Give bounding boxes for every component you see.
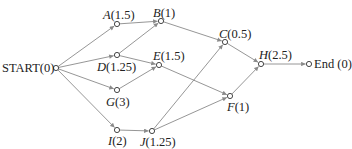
node-duration: (1)	[161, 6, 176, 20]
node-label-end: End (0)	[314, 58, 352, 71]
node-name: A	[103, 8, 111, 22]
node-label-start: START(0)	[2, 62, 54, 75]
node-duration: (2)	[112, 134, 127, 148]
node-label-d: D(1.25)	[97, 61, 136, 74]
node-label-g: G(3)	[106, 96, 130, 109]
node-end-icon	[306, 61, 311, 66]
node-duration: (2.5)	[268, 48, 292, 62]
node-label-b: B(1)	[153, 7, 175, 20]
node-a-icon	[114, 21, 119, 26]
node-d-icon	[114, 52, 119, 57]
node-label-f: F(1)	[227, 101, 249, 114]
edge-j-to-f	[154, 97, 227, 130]
node-i-icon	[114, 127, 119, 132]
node-name: B	[153, 6, 161, 20]
node-label-j: J(1.25)	[140, 136, 176, 149]
edge-layer	[58, 21, 306, 131]
node-duration: (1.25)	[146, 135, 176, 149]
node-f-icon	[227, 93, 232, 98]
edge-b-to-c	[163, 22, 221, 41]
node-layer	[53, 18, 311, 133]
node-name: H	[259, 48, 268, 62]
node-name: E	[153, 49, 161, 63]
node-label-h: H(2.5)	[259, 49, 292, 62]
node-label-a: A(1.5)	[103, 9, 135, 22]
node-name: D	[97, 60, 106, 74]
node-h-icon	[258, 61, 263, 66]
node-name: G	[106, 95, 115, 109]
edge-f-to-h	[232, 66, 259, 94]
node-duration: (1.25)	[106, 60, 136, 74]
node-duration: (1)	[235, 100, 250, 114]
node-name: F	[227, 100, 235, 114]
node-label-i: I(2)	[108, 135, 127, 148]
node-j-icon	[149, 128, 154, 133]
node-label-e: E(1.5)	[153, 50, 185, 63]
node-label-c: C(0.5)	[219, 28, 251, 41]
edge-i-to-j	[120, 130, 149, 131]
node-duration: (1.5)	[161, 49, 185, 63]
node-duration: (0.5)	[227, 27, 251, 41]
node-e-icon	[156, 62, 161, 67]
edge-c-to-h	[227, 43, 258, 62]
node-duration: (3)	[115, 95, 130, 109]
node-duration: (1.5)	[111, 8, 135, 22]
node-g-icon	[114, 87, 119, 92]
